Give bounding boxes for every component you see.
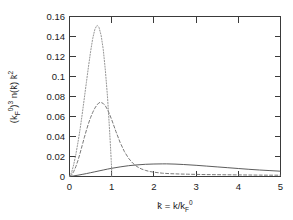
- y-tick-label-3: 0.06: [47, 111, 66, 122]
- plot-frame: [70, 17, 281, 177]
- y-axis-title-sub1: F: [14, 111, 21, 115]
- y-axis-title-mid: n(k̄) k̄: [8, 74, 19, 101]
- x-tick-label-3: 3: [193, 181, 198, 192]
- y-tick-label-0: 0: [60, 171, 65, 182]
- y-tick-label-2: 0.04: [47, 131, 66, 142]
- y-tick-label-6: 0.12: [47, 51, 66, 62]
- x-tick-label-2: 2: [151, 181, 156, 192]
- data-curves: [70, 26, 281, 177]
- y-axis-title-sup3: 2: [7, 70, 14, 74]
- x-tick-label-5: 5: [278, 181, 283, 192]
- x-tick-label-4: 4: [236, 181, 241, 192]
- x-axis-title: k̄ = k/kF0: [157, 199, 193, 213]
- y-tick-label-4: 0.08: [47, 91, 66, 102]
- momentum-distribution-chart: 0 0.02 0.04 0.06 0.08 0.1 0.12 0.14 0.16…: [0, 0, 293, 220]
- svg-text:k̄ = k/kF0: k̄ = k/kF0: [157, 199, 193, 213]
- x-axis-tick-labels: 0 1 2 3 4 5: [67, 181, 283, 192]
- x-tick-label-0: 0: [67, 181, 72, 192]
- y-tick-label-5: 0.1: [52, 71, 65, 82]
- dashed-curve: [70, 103, 281, 177]
- y-tick-label-8: 0.16: [47, 11, 66, 22]
- y-tick-label-7: 0.14: [47, 31, 66, 42]
- x-axis-title-eq: = k/k: [162, 200, 185, 211]
- y-axis-ticks: [70, 17, 281, 177]
- dotted-curve: [70, 26, 112, 177]
- y-axis-title: (kF0)3 n(k̄) k̄2: [7, 70, 21, 123]
- x-tick-label-1: 1: [109, 181, 114, 192]
- svg-text:(kF0)3 n(k̄) k̄2: (kF0)3 n(k̄) k̄2: [7, 70, 21, 123]
- x-axis-ticks: [70, 17, 281, 177]
- y-axis-tick-labels: 0 0.02 0.04 0.06 0.08 0.1 0.12 0.14 0.16: [47, 11, 66, 182]
- chart-figure: 0 0.02 0.04 0.06 0.08 0.1 0.12 0.14 0.16…: [0, 0, 293, 220]
- y-tick-label-1: 0.02: [47, 151, 66, 162]
- x-axis-title-sub: F: [185, 206, 189, 213]
- x-axis-title-sup: 0: [189, 199, 193, 206]
